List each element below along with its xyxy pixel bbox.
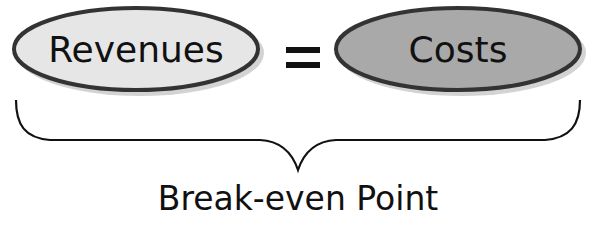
equals-sign — [286, 47, 320, 68]
revenues-label: Revenues — [48, 29, 224, 70]
curly-brace-icon — [16, 100, 580, 170]
break-even-caption: Break-even Point — [158, 179, 439, 218]
revenues-node: Revenues — [14, 8, 264, 96]
costs-node: Costs — [336, 8, 586, 96]
break-even-diagram: Revenues Costs Break-even Point — [0, 0, 595, 230]
costs-label: Costs — [409, 29, 508, 70]
